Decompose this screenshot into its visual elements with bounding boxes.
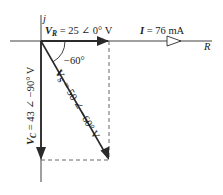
vr-arrowhead-icon <box>97 36 109 46</box>
vc-label: VC = 43 ∠ −90° V <box>25 66 38 145</box>
current-label: I = 76 mA <box>139 25 185 36</box>
vr-label: VR = 25 ∠ 0° V <box>45 25 113 38</box>
real-axis-label: R <box>203 41 211 52</box>
current-arrowhead-icon <box>167 36 181 46</box>
angle-label: −60° <box>64 55 85 66</box>
vs-label: VS = 50 ∠ −60° V <box>52 68 103 143</box>
imag-axis-label: j <box>41 13 46 24</box>
vc-arrowhead-icon <box>36 147 46 160</box>
phasor-diagram: j R −60° VR = 25 ∠ 0° V I = 76 mA VC = 4… <box>0 0 223 195</box>
